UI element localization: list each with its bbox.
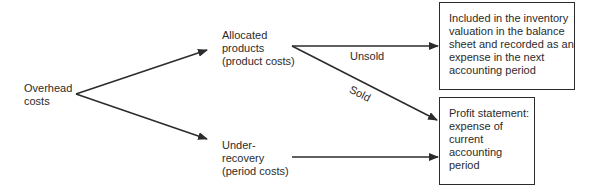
node-text-line: Under- (222, 139, 289, 152)
box-text-line: period (449, 159, 526, 172)
node-text-line: Overhead (24, 82, 72, 95)
box-text-line: sheet and recorded as an (449, 38, 566, 51)
arrow-overhead-to-under (76, 94, 207, 139)
box-text-line: accounting period (449, 64, 566, 77)
node-overhead-costs: Overhead costs (24, 82, 72, 108)
edge-label-unsold: Unsold (350, 50, 384, 63)
node-text-line: (period costs) (222, 165, 289, 178)
box-profit-statement: Profit statement: expense of current acc… (439, 97, 535, 185)
box-text-line: expense in the next (449, 51, 566, 64)
box-inventory-valuation: Included in the inventory valuation in t… (439, 2, 575, 90)
box-text-line: expense of (449, 120, 526, 133)
box-text-line: accounting (449, 146, 526, 159)
node-text-line: Allocated (222, 29, 295, 42)
node-text-line: products (222, 42, 295, 55)
box-text-line: current (449, 133, 526, 146)
box-text-line: Included in the inventory (449, 12, 566, 25)
node-text-line: costs (24, 95, 72, 108)
arrow-overhead-to-allocated (76, 50, 207, 94)
node-text-line: recovery (222, 152, 289, 165)
node-text-line: (product costs) (222, 55, 295, 68)
node-allocated-products: Allocated products (product costs) (222, 29, 295, 68)
box-text-line: valuation in the balance (449, 25, 566, 38)
box-text-line: Profit statement: (449, 107, 526, 120)
node-under-recovery: Under- recovery (period costs) (222, 139, 289, 178)
